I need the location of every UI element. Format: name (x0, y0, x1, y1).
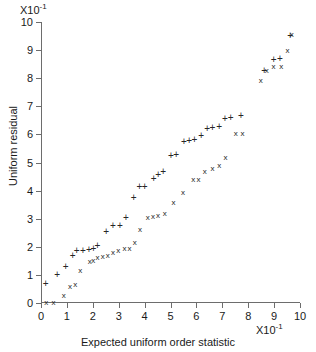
data-point-x: x (88, 257, 92, 266)
y-tick-8: 8 (36, 78, 41, 79)
data-point-+: + (103, 226, 109, 235)
data-point-+: + (222, 113, 228, 122)
y-tick-label-10: 10 (21, 16, 33, 28)
data-point-+: + (90, 243, 96, 252)
data-point-+: + (181, 136, 187, 145)
data-point-+: + (287, 30, 293, 39)
y-tick-label-7: 7 (27, 100, 33, 112)
data-point-x: x (203, 166, 207, 175)
x-axis-title: Expected uniform order statistic (0, 336, 316, 348)
y-tick-label-8: 8 (27, 72, 33, 84)
data-point-x: x (241, 128, 245, 137)
x-tick-label-5: 5 (167, 310, 173, 322)
x-axis-exponent-label: X10-1 (256, 322, 283, 336)
data-point-x: x (146, 213, 150, 222)
x-tick-10: 10 (300, 303, 301, 308)
x-tick-label-8: 8 (245, 310, 251, 322)
data-point-x: x (128, 244, 132, 253)
data-point-x: x (156, 211, 160, 220)
data-point-+: + (110, 220, 116, 229)
x-tick-label-9: 9 (271, 310, 277, 322)
data-point-+: + (86, 245, 92, 254)
data-point-x: x (210, 163, 214, 172)
data-point-+: + (210, 123, 216, 132)
data-point-+: + (271, 54, 277, 63)
data-point-x: x (265, 65, 269, 74)
y-tick-label-1: 1 (27, 269, 33, 281)
data-point-+: + (43, 278, 49, 287)
data-point-+: + (142, 181, 148, 190)
data-point-+: + (160, 166, 166, 175)
data-point-x: x (62, 290, 66, 299)
y-tick-4: 4 (36, 191, 41, 192)
data-point-x: x (78, 265, 82, 274)
data-point-x: x (111, 247, 115, 256)
data-point-x: x (122, 244, 126, 253)
x-tick-label-7: 7 (219, 310, 225, 322)
x-tick-8: 8 (248, 303, 249, 308)
data-point-x: x (223, 152, 227, 161)
y-axis-line (41, 22, 42, 303)
y-tick-label-2: 2 (27, 241, 33, 253)
chart-page: X10-1 Uniform residual 012345678910 0123… (0, 0, 316, 352)
x-tick-3: 3 (119, 303, 120, 308)
x-tick-7: 7 (222, 303, 223, 308)
y-axis-title: Uniform residual (7, 86, 19, 206)
y-tick-label-3: 3 (27, 213, 33, 225)
data-point-+: + (228, 112, 234, 121)
y-tick-5: 5 (36, 163, 41, 164)
y-tick-label-9: 9 (27, 44, 33, 56)
y-tick-9: 9 (36, 50, 41, 51)
x-tick-label-0: 0 (38, 310, 44, 322)
x-tick-label-6: 6 (193, 310, 199, 322)
data-point-x: x (286, 45, 290, 54)
data-point-+: + (80, 245, 86, 254)
data-point-x: x (163, 208, 167, 217)
data-point-+: + (168, 150, 174, 159)
y-tick-6: 6 (36, 134, 41, 135)
data-point-x: x (234, 128, 238, 137)
data-point-+: + (191, 135, 197, 144)
data-point-x: x (217, 160, 221, 169)
data-point-x: x (196, 174, 200, 183)
y-tick-label-0: 0 (27, 297, 33, 309)
data-point-x: x (95, 253, 99, 262)
data-point-+: + (198, 130, 204, 139)
data-point-+: + (117, 220, 123, 229)
data-point-+: + (216, 121, 222, 130)
data-point-x: x (91, 256, 95, 265)
data-point-+: + (186, 136, 192, 145)
x-tick-label-10: 10 (294, 310, 306, 322)
y-tick-1: 1 (36, 275, 41, 276)
data-point-+: + (136, 181, 142, 190)
data-point-x: x (191, 175, 195, 184)
data-point-x: x (101, 251, 105, 260)
y-tick-10: 10 (36, 22, 41, 23)
data-point-x: x (73, 279, 77, 288)
y-tick-label-6: 6 (27, 128, 33, 140)
data-point-+: + (261, 66, 267, 75)
data-point-x: x (181, 188, 185, 197)
data-point-+: + (74, 246, 80, 255)
x-tick-label-2: 2 (90, 310, 96, 322)
x-tick-1: 1 (67, 303, 68, 308)
y-axis-exponent-label: X10-1 (20, 2, 47, 16)
data-point-x: x (290, 29, 294, 38)
data-point-+: + (63, 262, 69, 271)
data-point-+: + (204, 124, 210, 133)
x-tick-4: 4 (145, 303, 146, 308)
y-tick-2: 2 (36, 247, 41, 248)
data-point-x: x (106, 251, 110, 260)
x-tick-label-3: 3 (116, 310, 122, 322)
data-point-+: + (131, 192, 137, 201)
data-point-x: x (133, 237, 137, 246)
data-point-x: x (172, 198, 176, 207)
data-point-x: x (272, 62, 276, 71)
data-point-+: + (123, 213, 129, 222)
data-point-+: + (238, 110, 244, 119)
x-tick-0: 0 (41, 303, 42, 308)
y-tick-7: 7 (36, 106, 41, 107)
data-point-x: x (138, 225, 142, 234)
x-tick-6: 6 (196, 303, 197, 308)
x-tick-2: 2 (93, 303, 94, 308)
